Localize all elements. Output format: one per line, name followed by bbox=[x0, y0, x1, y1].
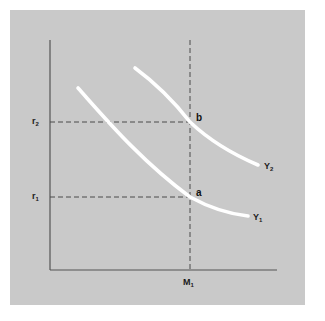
y-tick-r2-base: r bbox=[32, 116, 36, 126]
y-tick-r2-sub: 2 bbox=[36, 121, 39, 127]
x-tick-label-m1: M1 bbox=[183, 278, 194, 287]
y-tick-r1-sub: 1 bbox=[36, 196, 39, 202]
figure-container: r2 r1 M1 b a Y2 Y1 bbox=[0, 0, 325, 321]
y-tick-label-r1: r1 bbox=[32, 192, 39, 201]
y-tick-r1-base: r bbox=[32, 191, 36, 201]
chart-panel: r2 r1 M1 b a Y2 Y1 bbox=[10, 10, 305, 305]
curve-label-y2: Y2 bbox=[264, 162, 273, 171]
chart-plot-area bbox=[10, 10, 305, 305]
curve-y1-sub: 1 bbox=[259, 217, 262, 223]
x-tick-m1-sub: 1 bbox=[191, 282, 194, 288]
y-tick-label-r2: r2 bbox=[32, 117, 39, 126]
curve-y2-sub: 2 bbox=[270, 166, 273, 172]
x-tick-m1-base: M bbox=[183, 277, 191, 287]
curve-label-y1: Y1 bbox=[253, 213, 262, 222]
point-label-b: b bbox=[196, 113, 202, 123]
point-label-a: a bbox=[196, 188, 202, 198]
